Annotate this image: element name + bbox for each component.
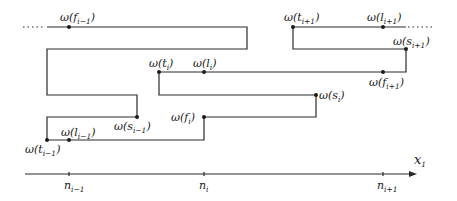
point-t-i-plus-1 (291, 25, 295, 29)
point-s-i (314, 93, 318, 97)
point-s-i-minus-1 (135, 115, 139, 119)
label-f-i-minus-1: ω(fi−1) (60, 11, 95, 26)
path-diagram: ω(fi−1) ω(ti+1) ω(li+1) ω(si+1) ω(ti) ω(… (0, 0, 457, 201)
point-markers (45, 25, 408, 142)
label-s-i-plus-1: ω(si+1) (393, 35, 430, 50)
x1-axis (25, 171, 417, 177)
point-f-i (202, 115, 206, 119)
label-s-i-minus-1: ω(si−1) (114, 120, 151, 135)
point-f-i-plus-1 (381, 70, 385, 74)
label-l-i: ω(li) (193, 57, 217, 72)
tick-label-n-i-plus-1: ni+1 (377, 179, 398, 194)
point-t-i (157, 70, 161, 74)
label-s-i: ω(si) (319, 89, 345, 104)
label-f-i: ω(fi) (171, 111, 195, 126)
label-l-i-plus-1: ω(li+1) (367, 11, 402, 26)
label-t-i: ω(ti) (149, 57, 173, 72)
label-f-i-plus-1: ω(fi+1) (369, 76, 404, 91)
label-t-i-minus-1: ω(ti−1) (25, 143, 60, 158)
label-t-i-plus-1: ω(ti+1) (284, 11, 319, 26)
path-segment-i-plus-1 (293, 27, 406, 49)
tick-label-n-i: ni (199, 179, 209, 194)
point-t-i-minus-1 (45, 138, 49, 142)
point-f-i-minus-1 (67, 25, 71, 29)
point-l-i (202, 70, 206, 74)
axis-label-x1: x1 (414, 152, 426, 169)
point-labels: ω(fi−1) ω(ti+1) ω(li+1) ω(si+1) ω(ti) ω(… (25, 11, 430, 158)
axis-arrowhead (409, 171, 417, 177)
label-l-i-minus-1: ω(li−1) (61, 126, 96, 141)
tick-label-n-i-minus-1: ni−1 (64, 179, 85, 194)
